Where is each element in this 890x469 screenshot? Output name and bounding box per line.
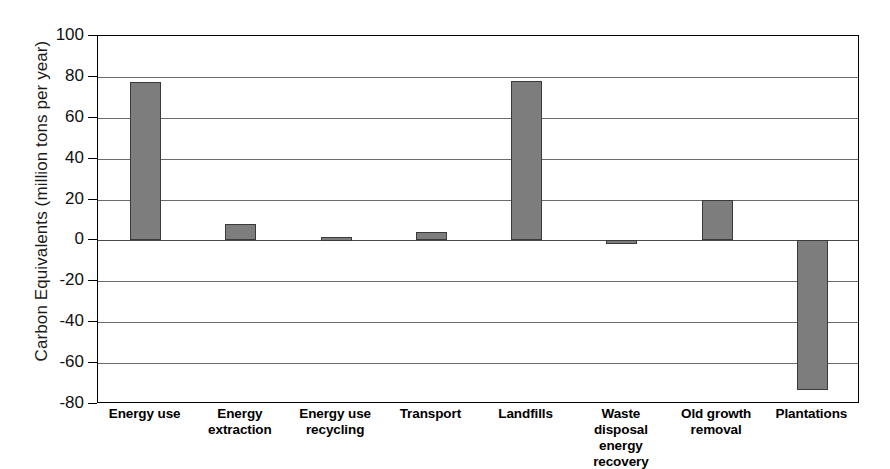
y-tick-label: -60 <box>14 352 84 372</box>
y-tick-mark <box>88 199 97 200</box>
x-axis-label: Landfills <box>478 406 573 422</box>
y-tick-mark <box>88 35 97 36</box>
y-tick-mark <box>88 158 97 159</box>
gridline <box>98 77 858 78</box>
y-tick-mark <box>88 362 97 363</box>
x-axis-label: Old growthremoval <box>669 406 764 438</box>
y-tick-mark <box>88 76 97 77</box>
x-axis-label: Transport <box>383 406 478 422</box>
gridline <box>98 322 858 323</box>
bar <box>225 224 256 240</box>
x-axis-label: Energy userecycling <box>288 406 383 438</box>
gridline <box>98 118 858 119</box>
y-tick-label: 100 <box>14 25 84 45</box>
x-axis-label: Plantations <box>764 406 859 422</box>
x-axis-label: Energy use <box>97 406 192 422</box>
bar <box>702 200 733 241</box>
y-tick-label: -20 <box>14 270 84 290</box>
gridline <box>98 281 858 282</box>
plot-area <box>97 35 859 403</box>
bar <box>130 82 161 240</box>
gridline <box>98 159 858 160</box>
y-tick-label: 20 <box>14 189 84 209</box>
y-tick-label: 60 <box>14 107 84 127</box>
bar <box>606 240 637 244</box>
bar <box>321 237 352 241</box>
x-axis-label: Waste disposalenergy recovery <box>573 406 668 469</box>
y-tick-mark <box>88 117 97 118</box>
y-axis-ticks: 100806040200-20-40-60-80 <box>0 35 97 403</box>
y-tick-label: 40 <box>14 148 84 168</box>
y-tick-label: 0 <box>14 229 84 249</box>
x-axis-label: Energyextraction <box>192 406 287 438</box>
y-tick-label: -40 <box>14 311 84 331</box>
y-tick-mark <box>88 321 97 322</box>
gridline <box>98 200 858 201</box>
bar <box>797 240 828 389</box>
y-tick-mark <box>88 403 97 404</box>
y-tick-label: -80 <box>14 393 84 413</box>
gridline <box>98 240 858 241</box>
y-tick-mark <box>88 239 97 240</box>
gridline <box>98 363 858 364</box>
x-axis-labels: Energy useEnergyextractionEnergy userecy… <box>97 406 859 464</box>
bar <box>416 232 447 240</box>
y-tick-mark <box>88 280 97 281</box>
bar <box>511 81 542 240</box>
y-tick-label: 80 <box>14 66 84 86</box>
chart-figure: Carbon Equivalents (million tons per yea… <box>0 0 890 469</box>
